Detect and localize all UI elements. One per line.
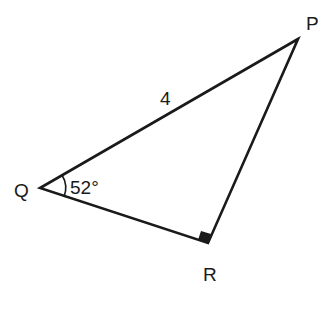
triangle-diagram: P Q R 4 52° (0, 0, 336, 319)
vertex-label-q: Q (14, 180, 29, 201)
angle-label-q: 52° (70, 177, 99, 198)
vertex-label-r: R (203, 264, 217, 285)
vertex-label-p: P (306, 13, 319, 34)
side-label-qp: 4 (160, 88, 171, 109)
triangle-pqr (40, 39, 298, 243)
angle-arc-q (62, 175, 66, 197)
